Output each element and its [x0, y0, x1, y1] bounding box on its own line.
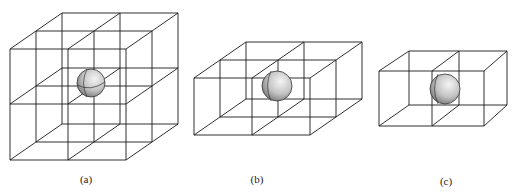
- diagram-canvas: [0, 0, 514, 196]
- figure-c-sphere: [430, 74, 460, 104]
- figure-b-label: (b): [251, 173, 264, 185]
- figure-c-label: (c): [440, 175, 452, 187]
- figure-b-sphere: [262, 71, 292, 101]
- figure-a-sphere: [77, 69, 105, 97]
- figure-a-label: (a): [80, 173, 92, 185]
